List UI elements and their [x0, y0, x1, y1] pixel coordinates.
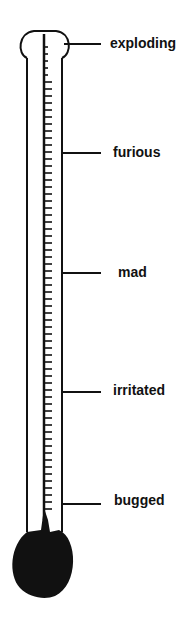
- level-label-furious: furious: [113, 144, 160, 160]
- mercury-bulb: [12, 508, 73, 598]
- level-label-exploding: exploding: [110, 35, 176, 51]
- level-label-mad: mad: [118, 264, 147, 280]
- thermometer: [0, 0, 190, 623]
- level-label-irritated: irritated: [113, 382, 165, 398]
- scale-ticks: [44, 47, 52, 509]
- level-label-bugged: bugged: [114, 492, 165, 508]
